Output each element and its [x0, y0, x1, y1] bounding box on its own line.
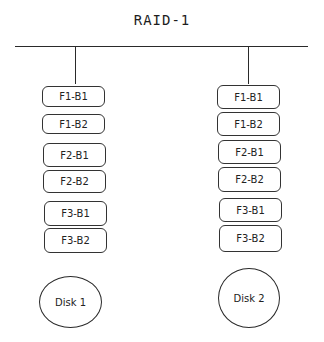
diagram-title: RAID-1 — [0, 12, 324, 28]
block-f2-b2: F2-B2 — [43, 170, 106, 193]
disk-2-circle: Disk 2 — [218, 268, 280, 328]
block-f1-b2: F1-B2 — [217, 112, 280, 136]
block-f3-b1: F3-B1 — [44, 201, 107, 226]
block-f3-b2: F3-B2 — [219, 225, 282, 252]
block-f3-b2: F3-B2 — [44, 228, 107, 253]
disk-1-circle: Disk 1 — [39, 276, 102, 328]
block-f2-b1: F2-B1 — [218, 140, 281, 164]
block-f1-b1: F1-B1 — [42, 86, 105, 107]
connector-line-disk-2 — [248, 46, 249, 84]
block-f1-b1: F1-B1 — [217, 85, 280, 109]
block-f2-b1: F2-B1 — [43, 143, 106, 167]
bus-line — [15, 46, 308, 47]
connector-line-disk-1 — [75, 46, 76, 84]
block-f2-b2: F2-B2 — [218, 167, 281, 192]
block-f1-b2: F1-B2 — [42, 114, 105, 134]
block-f3-b1: F3-B1 — [219, 198, 282, 222]
